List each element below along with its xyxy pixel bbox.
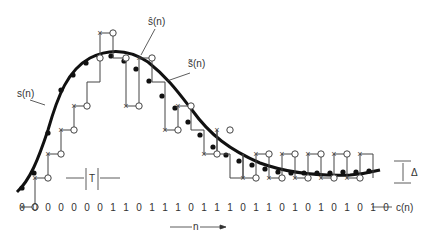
svg-text:0: 0 <box>58 202 64 213</box>
svg-text:0: 0 <box>32 202 38 213</box>
svg-text:0: 0 <box>84 202 90 213</box>
svg-text:0: 0 <box>383 202 389 213</box>
svg-text:0: 0 <box>240 202 246 213</box>
svg-text:0: 0 <box>97 202 103 213</box>
svg-text:×: × <box>266 173 271 183</box>
svg-text:0: 0 <box>136 202 142 213</box>
estimate-hat-label: ŝ(n) <box>148 16 165 27</box>
svg-text:×: × <box>162 125 167 135</box>
period-label: T <box>89 173 95 184</box>
svg-text:×: × <box>292 173 297 183</box>
svg-text:0: 0 <box>71 202 77 213</box>
step-size-label: Δ <box>411 167 418 178</box>
svg-text:×: × <box>305 149 310 159</box>
svg-text:×: × <box>45 149 50 159</box>
svg-text:0: 0 <box>188 202 194 213</box>
svg-text:×: × <box>318 173 323 183</box>
code-label: c(n) <box>396 202 413 213</box>
svg-text:0: 0 <box>305 202 311 213</box>
svg-text:1: 1 <box>201 202 207 213</box>
delta-modulation-diagram: ××× ××× ××× ××× ××× ××× ××× × s(n) ŝ(n) … <box>0 0 431 237</box>
svg-text:1: 1 <box>344 202 350 213</box>
signal-curve <box>17 52 380 192</box>
svg-text:1: 1 <box>266 202 272 213</box>
svg-text:×: × <box>344 173 349 183</box>
svg-text:1: 1 <box>110 202 116 213</box>
svg-text:1: 1 <box>370 202 376 213</box>
svg-text:1: 1 <box>318 202 324 213</box>
svg-text:1: 1 <box>123 202 129 213</box>
signal-label: s(n) <box>17 88 34 99</box>
svg-text:×: × <box>97 28 102 38</box>
svg-text:1: 1 <box>214 202 220 213</box>
svg-text:×: × <box>331 149 336 159</box>
svg-text:0: 0 <box>357 202 363 213</box>
svg-text:0: 0 <box>19 202 25 213</box>
svg-text:×: × <box>253 149 258 159</box>
svg-text:1: 1 <box>162 202 168 213</box>
svg-text:1: 1 <box>227 202 233 213</box>
svg-text:0: 0 <box>279 202 285 213</box>
svg-text:1: 1 <box>292 202 298 213</box>
time-axis-label: n <box>193 221 199 232</box>
step-size-marker <box>394 161 411 183</box>
svg-text:0: 0 <box>331 202 337 213</box>
svg-text:0: 0 <box>45 202 51 213</box>
svg-text:×: × <box>58 125 63 135</box>
sample-points <box>19 53 371 190</box>
svg-text:×: × <box>357 149 362 159</box>
code-sequence: 0 0 0 0 0 0 0 1 1 0 1 1 1 0 1 1 1 0 1 1 … <box>19 202 389 213</box>
svg-text:×: × <box>175 101 180 111</box>
svg-text:1: 1 <box>253 202 259 213</box>
svg-text:×: × <box>214 125 219 135</box>
svg-text:×: × <box>123 101 128 111</box>
estimate-tilde-label: s̃(n) <box>188 58 205 69</box>
svg-text:×: × <box>201 149 206 159</box>
svg-text:×: × <box>71 101 76 111</box>
svg-text:1: 1 <box>175 202 181 213</box>
svg-text:1: 1 <box>149 202 155 213</box>
svg-text:×: × <box>240 173 245 183</box>
svg-text:×: × <box>279 149 284 159</box>
svg-text:×: × <box>32 173 37 183</box>
